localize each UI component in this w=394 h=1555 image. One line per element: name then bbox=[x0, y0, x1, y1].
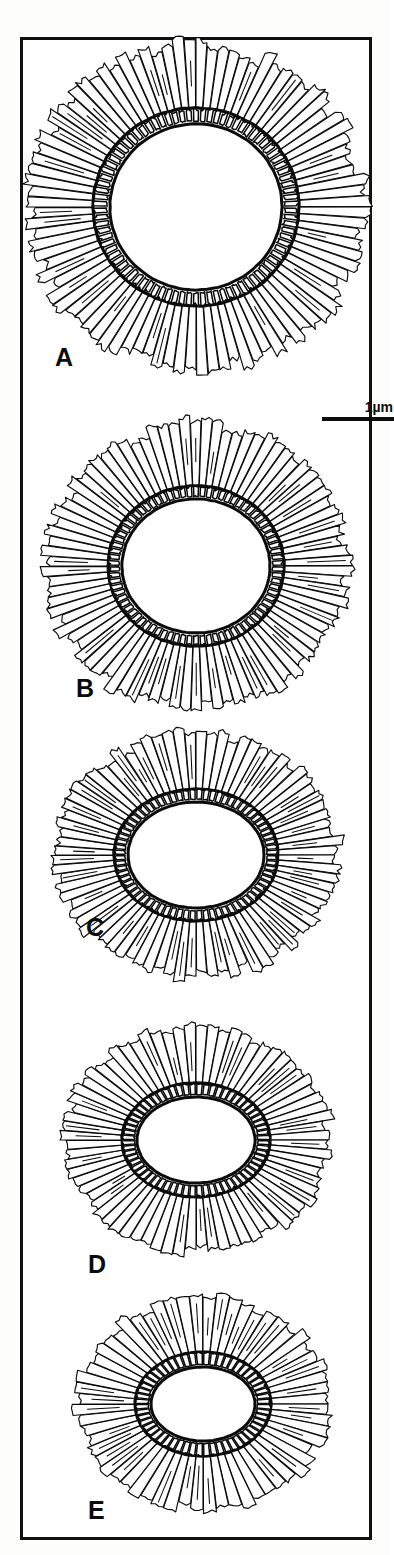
inner-band-cell bbox=[94, 214, 109, 220]
inner-band-cell bbox=[115, 850, 126, 854]
inner-band-cell bbox=[187, 635, 192, 645]
inner-band-cell bbox=[284, 208, 297, 213]
inner-band-cell bbox=[122, 1135, 135, 1139]
inner-band-cell bbox=[173, 489, 179, 499]
lumen-boundary-ring bbox=[137, 1097, 255, 1183]
panel-label-a: A bbox=[55, 345, 74, 370]
inner-band-cell bbox=[108, 561, 119, 566]
inner-band-cell bbox=[200, 292, 205, 306]
inner-band-cell bbox=[197, 1185, 203, 1197]
inner-band-cell bbox=[283, 187, 297, 193]
inner-band-cell bbox=[204, 1443, 210, 1456]
inner-band-cell bbox=[203, 1184, 209, 1196]
inner-band-cell bbox=[282, 221, 297, 228]
inner-band-cell bbox=[203, 909, 209, 919]
inner-band-cell bbox=[284, 201, 299, 206]
inner-band-cell bbox=[200, 109, 206, 122]
inner-band-cell bbox=[94, 194, 108, 200]
inner-band-cell bbox=[95, 187, 109, 193]
inner-band-cell bbox=[93, 208, 107, 213]
panel-label-d: D bbox=[88, 1252, 107, 1277]
inner-band-cell bbox=[115, 845, 126, 850]
inner-band-cell bbox=[190, 1083, 195, 1095]
inner-band-cell bbox=[257, 1399, 271, 1404]
inner-band-cell bbox=[271, 554, 283, 559]
inner-band-cell bbox=[206, 634, 212, 645]
panel-a-drawing bbox=[12, 29, 380, 385]
inner-band-cell bbox=[122, 1141, 135, 1145]
inner-band-cell bbox=[110, 548, 122, 554]
inner-band-cell bbox=[257, 1141, 269, 1145]
inner-band-cell bbox=[135, 1404, 148, 1409]
inner-band-cell bbox=[97, 227, 110, 234]
inner-band-cell bbox=[109, 567, 120, 572]
scale-bar-label: 1µm bbox=[322, 400, 394, 415]
inner-band-cell bbox=[200, 486, 205, 496]
inner-band-cell bbox=[266, 861, 277, 866]
inner-band-cell bbox=[95, 221, 109, 227]
inner-band-cell bbox=[190, 1185, 195, 1197]
inner-band-cell bbox=[203, 790, 209, 801]
scale-bar: 1µm bbox=[322, 400, 394, 421]
inner-band-cell bbox=[200, 635, 205, 646]
panel-c-drawing bbox=[38, 717, 354, 993]
inner-band-cell bbox=[284, 214, 299, 220]
inner-band-cell bbox=[204, 1352, 210, 1365]
inner-band-cell bbox=[272, 572, 283, 577]
inner-band-cell bbox=[190, 911, 195, 921]
lumen-boundary-ring bbox=[151, 1367, 255, 1441]
lumen-boundary-ring bbox=[128, 802, 264, 908]
inner-band-cell bbox=[109, 554, 119, 559]
scale-bar-line bbox=[322, 417, 394, 421]
inner-band-cell bbox=[114, 856, 125, 860]
inner-band-cell bbox=[186, 109, 191, 121]
inner-band-cell bbox=[206, 487, 212, 498]
inner-band-cell bbox=[272, 561, 283, 566]
radial-cell-septum bbox=[73, 851, 95, 852]
inner-band-cell bbox=[186, 486, 192, 497]
inner-band-cell bbox=[93, 201, 107, 206]
inner-band-cell bbox=[183, 910, 189, 920]
radial-cell-septum bbox=[297, 858, 313, 859]
inner-band-cell bbox=[194, 635, 199, 645]
panel-c bbox=[38, 717, 354, 993]
inner-band-cell bbox=[267, 850, 278, 854]
inner-band-cell bbox=[186, 292, 191, 305]
panel-e bbox=[61, 1282, 345, 1526]
inner-band-cell bbox=[179, 291, 185, 304]
inner-band-cell bbox=[203, 1083, 209, 1095]
inner-band-cell bbox=[179, 111, 185, 122]
inner-band-cell bbox=[115, 861, 127, 866]
inner-band-cell bbox=[284, 194, 298, 200]
inner-band-cell bbox=[267, 856, 277, 860]
panel-label-e: E bbox=[88, 1498, 105, 1523]
inner-band-cell bbox=[257, 1135, 270, 1139]
inner-band-cell bbox=[207, 109, 214, 123]
inner-band-cell bbox=[194, 486, 199, 497]
lumen-boundary-ring bbox=[122, 499, 270, 633]
inner-band-cell bbox=[207, 291, 214, 304]
inner-band-cell bbox=[197, 1083, 203, 1095]
inner-band-cell bbox=[197, 789, 202, 799]
panel-label-b: B bbox=[76, 676, 95, 701]
inner-band-cell bbox=[196, 1443, 202, 1456]
inner-band-cell bbox=[109, 578, 121, 584]
inner-band-cell bbox=[183, 791, 189, 800]
inner-band-cell bbox=[196, 1352, 202, 1365]
inner-band-cell bbox=[190, 789, 195, 799]
panel-d-drawing bbox=[47, 1012, 345, 1268]
inner-band-cell bbox=[194, 108, 199, 122]
inner-band-cell bbox=[271, 548, 282, 554]
inner-band-cell bbox=[180, 634, 186, 644]
inner-band-cell bbox=[272, 567, 284, 572]
inner-band-cell bbox=[197, 910, 202, 920]
figure-frame: ABCDE 1µm bbox=[20, 37, 372, 1540]
inner-band-cell bbox=[183, 1185, 190, 1196]
inner-band-cell bbox=[271, 578, 283, 584]
panel-label-c: C bbox=[86, 915, 105, 940]
inner-band-cell bbox=[180, 487, 186, 497]
inner-band-cell bbox=[265, 845, 277, 850]
panel-d bbox=[47, 1012, 345, 1268]
panel-e-drawing bbox=[61, 1282, 345, 1526]
